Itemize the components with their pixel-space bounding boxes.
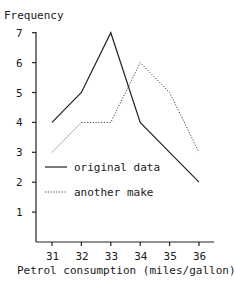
line-chart: Frequency 1234567 313233343536 original … [0, 0, 235, 289]
axes [36, 32, 214, 242]
x-tick-label: 36 [193, 250, 206, 263]
x-axis-label: Petrol consumption (miles/gallon) [17, 264, 235, 277]
series-lines [52, 33, 199, 183]
legend: original data another make [45, 161, 160, 199]
legend-label-original: original data [74, 161, 160, 174]
y-tick-label: 3 [16, 146, 23, 159]
y-tick-label: 1 [16, 206, 23, 219]
y-ticks: 1234567 [16, 27, 36, 219]
x-tick-label: 32 [75, 250, 88, 263]
x-tick-label: 31 [46, 250, 59, 263]
y-tick-label: 6 [16, 57, 23, 70]
x-tick-label: 35 [164, 250, 177, 263]
x-ticks: 313233343536 [46, 242, 206, 263]
y-tick-label: 5 [16, 87, 23, 100]
y-tick-label: 7 [16, 27, 23, 40]
x-tick-label: 33 [105, 250, 118, 263]
x-tick-label: 34 [134, 250, 148, 263]
y-axis-label: Frequency [4, 9, 64, 22]
y-tick-label: 2 [16, 176, 23, 189]
y-tick-label: 4 [16, 116, 23, 129]
legend-label-another: another make [74, 186, 153, 199]
